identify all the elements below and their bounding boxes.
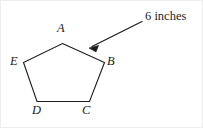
vertex-label-c: C [82, 104, 90, 117]
vertex-label-d: D [32, 104, 41, 117]
vertex-label-e: E [10, 55, 18, 68]
annotation-arrow-line [92, 22, 142, 47]
vertex-label-b: B [107, 55, 115, 68]
pentagon-figure: A E B D C 6 inches [0, 0, 203, 128]
measurement-annotation-label: 6 inches [145, 10, 186, 23]
annotation-arrow-head-icon [89, 45, 99, 52]
vertex-label-a: A [57, 22, 65, 35]
pentagon-outline [24, 44, 105, 102]
